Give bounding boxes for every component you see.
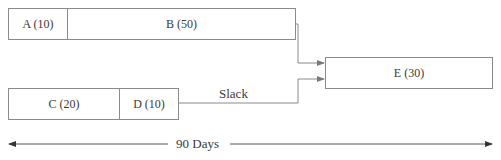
slack-label: Slack	[219, 86, 248, 102]
timeline-label: 90 Days	[176, 136, 219, 152]
connector-d-to-e-slack	[178, 79, 324, 103]
task-b-label: B (50)	[166, 17, 197, 32]
task-e-label: E (30)	[394, 66, 424, 81]
task-d-box: D (10)	[119, 88, 179, 120]
task-c-box: C (20)	[8, 88, 120, 120]
task-a-label: A (10)	[23, 17, 54, 32]
connector-b-to-e	[295, 24, 324, 63]
task-d-label: D (10)	[133, 97, 165, 112]
task-e-box: E (30)	[325, 57, 493, 89]
task-b-box: B (50)	[67, 8, 296, 40]
task-c-label: C (20)	[49, 97, 80, 112]
task-a-box: A (10)	[8, 8, 68, 40]
